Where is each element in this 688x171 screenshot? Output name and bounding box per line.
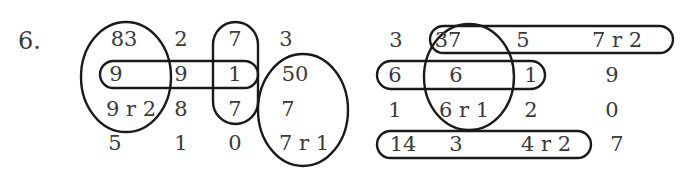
left-cell: 7 r 1	[279, 132, 329, 154]
left-cell: 5	[108, 132, 121, 154]
left-cell: 50	[282, 63, 309, 85]
left-cell: 3	[279, 28, 292, 50]
right-cell: 6	[388, 64, 401, 86]
right-cell: 5	[516, 29, 529, 51]
right-cell: 3	[449, 133, 462, 155]
left-cell: 9 r 2	[106, 98, 156, 120]
left-cell: 7	[281, 98, 294, 120]
left-cell: 7	[228, 28, 241, 50]
left-cell: 8	[174, 98, 187, 120]
left-cell: 0	[228, 132, 241, 154]
left-cell: 1	[174, 132, 187, 154]
right-cell: 7	[610, 133, 623, 155]
right-cell: 2	[524, 99, 537, 121]
right-cell: 3	[389, 29, 402, 51]
right-cell: 6 r 1	[439, 99, 489, 121]
right-cell: 9	[605, 64, 618, 86]
left-cell: 1	[228, 63, 241, 85]
right-cell: 1	[388, 99, 401, 121]
right-cell: 6	[449, 64, 462, 86]
left-cell: 2	[174, 28, 187, 50]
right-cell: 7 r 2	[592, 29, 642, 51]
left-cell: 9	[174, 63, 187, 85]
left-cell: 7	[228, 98, 241, 120]
right-cell: 14	[390, 133, 417, 155]
left-cell: 9	[109, 63, 122, 85]
right-cell: 4 r 2	[521, 133, 571, 155]
left-cell: 83	[111, 28, 138, 50]
right-cell: 1	[524, 64, 537, 86]
right-cell: 37	[435, 29, 462, 51]
right-cell: 0	[605, 99, 618, 121]
loop-markings	[0, 0, 688, 171]
